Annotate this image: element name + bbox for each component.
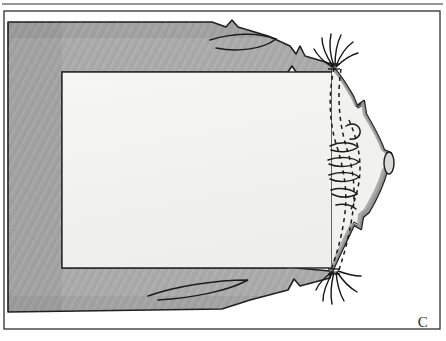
inner-cavity xyxy=(62,72,332,268)
figure-panel: C xyxy=(0,0,446,341)
specimen-illustration xyxy=(0,0,446,341)
marginal-nodule xyxy=(384,152,394,174)
panel-label: C xyxy=(418,314,428,331)
